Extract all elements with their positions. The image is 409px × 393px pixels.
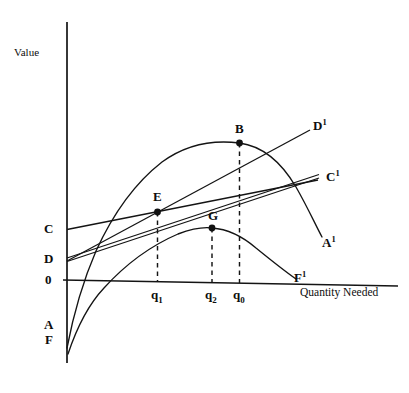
curve-label-d1-sup: 1: [322, 117, 326, 127]
point-label-b: B: [235, 122, 244, 135]
x-tick-q1: q1: [151, 288, 163, 305]
y-axis-label-d: D: [44, 252, 53, 265]
y-axis-label-f: F: [45, 333, 53, 346]
y-axis-label-c: C: [44, 222, 53, 235]
point-label-g: G: [208, 209, 218, 222]
x-tick-q0-sub: 0: [240, 295, 245, 305]
point-b: [236, 140, 243, 147]
point-g: [209, 225, 216, 232]
curve-label-c1-base: C: [326, 169, 335, 184]
x-axis-title: Quantity Needed: [300, 287, 378, 299]
curve-label-a1-sup: 1: [331, 234, 335, 244]
y-axis-label-a: A: [44, 318, 53, 331]
point-label-e: E: [153, 190, 162, 203]
y-axis-title: Value: [14, 47, 39, 58]
economics-diagram: [0, 0, 409, 393]
line-d-c1-outer: [67, 178, 319, 262]
curve-label-d1: D1: [313, 118, 327, 132]
x-tick-q2-sub: 2: [212, 295, 217, 305]
x-tick-q0: q0: [233, 288, 245, 305]
point-e: [154, 209, 161, 216]
x-tick-q1-sub: 1: [158, 295, 163, 305]
curve-label-c1-sup: 1: [335, 168, 339, 178]
curve-label-a1-base: A: [322, 235, 331, 250]
figure-page: Value Quantity Needed C D 0 A F q1 q2 q0…: [0, 0, 409, 393]
curve-label-c1: C1: [326, 169, 340, 183]
curve-label-f1-base: F: [294, 270, 302, 285]
line-d-d1: [67, 130, 310, 261]
curve-label-f1: F1: [294, 270, 306, 284]
curve-label-d1-base: D: [313, 118, 322, 133]
curve-label-a1: A1: [322, 235, 336, 249]
y-axis-label-origin: 0: [45, 273, 52, 286]
curve-label-f1-sup: 1: [302, 269, 306, 279]
line-d-c1-inner: [67, 175, 319, 259]
x-tick-q2: q2: [205, 288, 217, 305]
